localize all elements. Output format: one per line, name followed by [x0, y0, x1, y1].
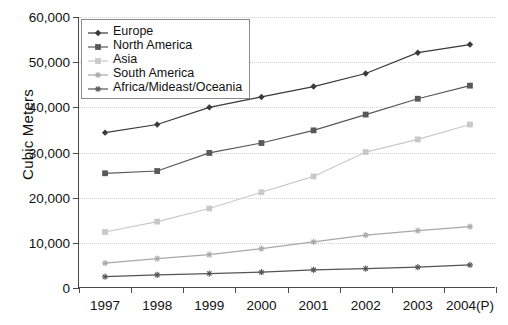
- line-chart: Cubic Meters 010,00020,00030,00040,00050…: [0, 0, 508, 325]
- legend-item-south-america[interactable]: South America: [87, 66, 242, 80]
- data-point-diamond: [258, 94, 264, 100]
- data-point-star: [206, 251, 212, 257]
- legend-marker-diamond-icon: [87, 25, 109, 37]
- data-point-star: [467, 223, 473, 229]
- data-point-square: [311, 127, 317, 133]
- data-point-diamond: [310, 83, 316, 89]
- data-point-square: [415, 96, 421, 102]
- data-point-star: [154, 256, 160, 262]
- series-line-south-america: [105, 227, 470, 264]
- data-point-star: [310, 239, 316, 245]
- legend-item-label: Asia: [113, 52, 137, 66]
- legend-item-label: Europe: [113, 24, 153, 38]
- data-point-star: [102, 274, 108, 280]
- data-point-diamond: [95, 30, 101, 36]
- data-point-square: [259, 189, 265, 195]
- data-point-star: [258, 269, 264, 275]
- data-point-square: [206, 206, 212, 212]
- x-tick-label: 1998: [142, 298, 172, 313]
- data-point-star: [206, 270, 212, 276]
- data-point-star: [95, 72, 101, 78]
- data-point-star: [467, 262, 473, 268]
- legend-item-africa-mideast-oceania[interactable]: Africa/Mideast/Oceania: [87, 80, 242, 94]
- legend-item-north-america[interactable]: North America: [87, 38, 242, 52]
- data-point-star: [415, 264, 421, 270]
- y-tick-label: 0: [62, 281, 70, 296]
- y-tick-label: 20,000: [29, 190, 70, 205]
- data-point-diamond: [362, 70, 368, 76]
- y-tick-label: 40,000: [29, 100, 70, 115]
- data-point-diamond: [415, 49, 421, 55]
- data-point-square: [206, 150, 212, 156]
- data-point-star: [154, 272, 160, 278]
- y-tick-label: 60,000: [29, 10, 70, 25]
- data-point-square: [363, 149, 369, 155]
- legend-marker-star-icon: [87, 67, 109, 79]
- legend-marker-star-icon: [87, 81, 109, 93]
- data-point-diamond: [154, 121, 160, 127]
- data-point-square: [154, 219, 160, 225]
- x-tick: [496, 287, 497, 293]
- data-point-star: [310, 267, 316, 273]
- data-point-star: [363, 232, 369, 238]
- data-point-diamond: [467, 41, 473, 47]
- x-tick-label: 1999: [194, 298, 224, 313]
- legend-item-label: Africa/Mideast/Oceania: [113, 80, 242, 94]
- data-point-square: [467, 122, 473, 128]
- x-tick-label: 2001: [299, 298, 329, 313]
- data-point-star: [95, 86, 101, 92]
- data-point-square: [363, 112, 369, 118]
- data-point-star: [363, 265, 369, 271]
- y-tick-label: 30,000: [29, 145, 70, 160]
- data-point-star: [258, 246, 264, 252]
- data-point-diamond: [102, 129, 108, 135]
- legend: EuropeNorth AmericaAsiaSouth AmericaAfri…: [81, 19, 250, 99]
- data-point-square: [467, 83, 473, 89]
- data-point-square: [102, 229, 108, 235]
- x-tick-label: 2003: [403, 298, 433, 313]
- legend-item-label: South America: [113, 66, 194, 80]
- data-point-diamond: [206, 104, 212, 110]
- data-point-square: [95, 58, 101, 64]
- data-point-square: [415, 137, 421, 143]
- data-point-square: [154, 168, 160, 174]
- data-point-square: [95, 44, 101, 50]
- x-tick-label: 2002: [351, 298, 381, 313]
- x-tick-label: 2004(P): [446, 298, 494, 313]
- data-point-square: [311, 174, 317, 180]
- data-point-square: [259, 140, 265, 146]
- data-point-star: [102, 260, 108, 266]
- legend-item-europe[interactable]: Europe: [87, 24, 242, 38]
- legend-marker-square-icon: [87, 39, 109, 51]
- x-tick-label: 2000: [246, 298, 276, 313]
- x-tick-label: 1997: [90, 298, 120, 313]
- legend-marker-square-icon: [87, 53, 109, 65]
- data-point-square: [102, 170, 108, 176]
- legend-item-label: North America: [113, 38, 192, 52]
- y-tick-label: 10,000: [29, 235, 70, 250]
- data-point-star: [415, 228, 421, 234]
- y-tick-label: 50,000: [29, 55, 70, 70]
- legend-item-asia[interactable]: Asia: [87, 52, 242, 66]
